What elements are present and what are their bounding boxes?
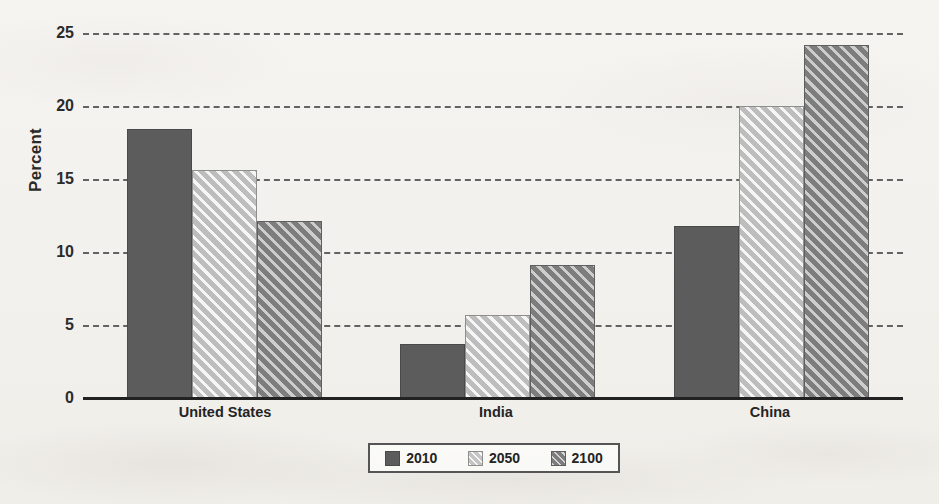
- bar-united-states-2050: [192, 170, 257, 398]
- bar-united-states-2100: [257, 221, 322, 398]
- y-tick-label-5: 5: [30, 316, 74, 334]
- legend-item-2010: 2010: [385, 450, 437, 466]
- bar-india-2100: [530, 265, 595, 398]
- bar-china-2050: [739, 106, 804, 398]
- y-tick-label-0: 0: [30, 389, 74, 407]
- legend-item-2050: 2050: [468, 450, 520, 466]
- y-tick-label-10: 10: [30, 243, 74, 261]
- legend-label-2050: 2050: [489, 450, 520, 466]
- legend-swatch-2100-icon: [551, 451, 566, 466]
- legend-label-2100: 2100: [572, 450, 603, 466]
- legend-swatch-2010-icon: [385, 451, 400, 466]
- y-axis-tick-labels: 25 20 15 10 5 0: [22, 0, 74, 504]
- legend-label-2010: 2010: [406, 450, 437, 466]
- bar-india-2050: [465, 315, 530, 398]
- plot-area: [83, 33, 903, 398]
- bar-united-states-2010: [127, 129, 192, 398]
- y-tick-label-20: 20: [30, 97, 74, 115]
- x-axis-line: [83, 397, 903, 400]
- x-label-china: China: [750, 404, 790, 420]
- chart-legend: 2010 2050 2100: [368, 443, 620, 473]
- bar-china-2100: [804, 45, 869, 398]
- legend-item-2100: 2100: [551, 450, 603, 466]
- y-tick-label-15: 15: [30, 170, 74, 188]
- bar-china-2010: [674, 226, 739, 398]
- legend-swatch-2050-icon: [468, 451, 483, 466]
- grouped-bar-chart: Percent 25 20 15 10 5 0 United States In…: [0, 0, 939, 504]
- bar-india-2010: [400, 344, 465, 398]
- y-tick-label-25: 25: [30, 24, 74, 42]
- x-label-india: India: [479, 404, 513, 420]
- bars-layer: [83, 33, 903, 398]
- x-label-united-states: United States: [179, 404, 272, 420]
